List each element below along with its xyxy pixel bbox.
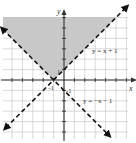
x-axis-arrow-icon [131,78,136,83]
y-axis-label: y [56,7,61,16]
y-axis-arrow-icon [62,9,67,15]
tick-label-x-neg1: -1 [49,84,54,91]
equation-label-1: y = x + 1 [92,47,118,55]
inequality-graph: yx1-1-1y = x + 1y = −x − 1 [0,0,136,143]
tick-label-y-neg1: -1 [66,87,71,94]
tick-label-y-1: 1 [57,68,60,75]
x-axis-label: x [128,84,133,93]
equation-label-2: y = −x − 1 [83,97,113,105]
